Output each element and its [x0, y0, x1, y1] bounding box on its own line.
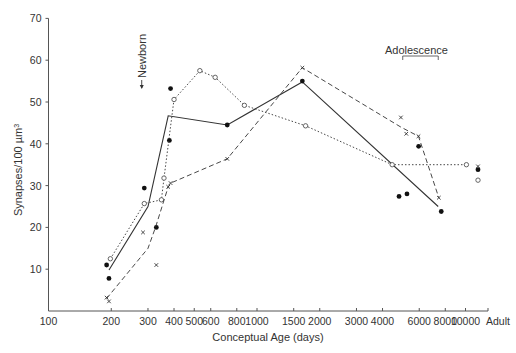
- y-axis-title: Synapses/100 µm3: [12, 124, 24, 216]
- x-tick-label: 500: [185, 315, 203, 327]
- x-tick-label: Adult: [486, 315, 510, 327]
- marker-open-circle: [242, 103, 246, 107]
- marker-filled-circle: [225, 123, 230, 128]
- y-tick-label: 10: [30, 263, 42, 275]
- series-line-open-circles: [110, 71, 466, 259]
- marker-filled-circle: [439, 209, 444, 214]
- x-tick-label: 200: [102, 315, 120, 327]
- x-tick-label: 2000: [308, 315, 332, 327]
- y-tick-label: 60: [30, 54, 42, 66]
- series-line-crosses: [107, 68, 439, 299]
- x-tick-label: 10000: [451, 315, 480, 327]
- marker-open-circle: [464, 163, 468, 167]
- y-tick-label: 30: [30, 180, 42, 192]
- x-tick-label: 4000: [371, 315, 395, 327]
- x-tick-label: 6000: [408, 315, 432, 327]
- marker-open-circle: [172, 97, 176, 101]
- x-tick-label: 1500: [282, 315, 306, 327]
- marker-cross: [141, 231, 145, 235]
- y-tick-label: 20: [30, 221, 42, 233]
- y-tick-label: 40: [30, 138, 42, 150]
- x-tick-label: 300: [139, 315, 157, 327]
- adolescence-label: Adolescence: [385, 44, 448, 56]
- newborn-label: Newborn: [136, 34, 148, 78]
- marker-cross: [169, 181, 173, 185]
- y-tick-label: 70: [30, 12, 42, 24]
- data-series: [104, 66, 480, 303]
- synapse-density-chart: 1020304050607010020030040050060080010001…: [0, 0, 516, 353]
- marker-open-circle: [108, 257, 112, 261]
- marker-filled-circle: [168, 86, 173, 91]
- marker-filled-circle: [416, 144, 421, 149]
- marker-filled-circle: [142, 186, 147, 191]
- x-tick-label: 1000: [245, 315, 269, 327]
- marker-cross: [225, 157, 229, 161]
- marker-open-circle: [303, 124, 307, 128]
- series-line-filled-circles: [109, 82, 438, 270]
- marker-open-circle: [476, 178, 480, 182]
- marker-filled-circle: [405, 192, 410, 197]
- marker-cross: [399, 116, 403, 120]
- marker-filled-circle: [300, 79, 305, 84]
- marker-open-circle: [390, 163, 394, 167]
- x-tick-label: 800: [228, 315, 246, 327]
- marker-open-circle: [198, 68, 202, 72]
- x-tick-label: 400: [165, 315, 183, 327]
- y-tick-label: 50: [30, 96, 42, 108]
- arrow-down-icon: [140, 85, 144, 89]
- marker-open-circle: [162, 176, 166, 180]
- marker-filled-circle: [107, 276, 112, 281]
- marker-cross: [404, 132, 408, 136]
- marker-cross: [155, 263, 159, 267]
- x-tick-label: 600: [202, 315, 220, 327]
- x-tick-label: 100: [40, 315, 58, 327]
- marker-filled-circle: [104, 263, 109, 268]
- adolescence-bracket: [403, 56, 438, 60]
- marker-open-circle: [142, 201, 146, 205]
- x-tick-label: 3000: [345, 315, 369, 327]
- marker-cross: [107, 300, 111, 304]
- marker-open-circle: [159, 198, 163, 202]
- x-axis-title: Conceptual Age (days): [212, 331, 323, 343]
- marker-open-circle: [213, 75, 217, 79]
- marker-cross: [301, 66, 305, 70]
- marker-filled-circle: [397, 194, 402, 199]
